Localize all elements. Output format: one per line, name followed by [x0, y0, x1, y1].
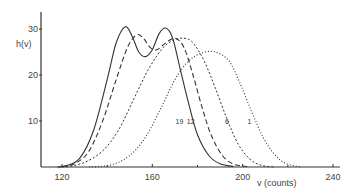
curve-19: [57, 27, 233, 167]
x-tick-label: 120: [54, 172, 69, 182]
curve-label: 12: [187, 118, 195, 125]
curve-label: 1: [247, 118, 251, 125]
x-tick-label: 240: [325, 172, 340, 182]
curve-label: 19: [176, 118, 184, 125]
chart: 102030120160200240 191261 h(v) v (counts…: [0, 0, 355, 196]
curve-label: 6: [225, 118, 229, 125]
curve-1: [89, 51, 301, 167]
curve-labels: 191261: [176, 118, 252, 125]
axes: 102030120160200240: [28, 12, 341, 182]
x-tick-label: 160: [145, 172, 160, 182]
curve-6: [67, 38, 275, 167]
x-axis-label: v (counts): [257, 178, 297, 188]
x-tick-label: 200: [235, 172, 250, 182]
y-tick-label: 30: [28, 24, 38, 34]
series-group: [57, 27, 301, 167]
y-tick-label: 10: [28, 116, 38, 126]
curve-12: [62, 35, 247, 167]
y-axis-label: h(v): [16, 39, 32, 49]
y-tick-label: 20: [28, 70, 38, 80]
